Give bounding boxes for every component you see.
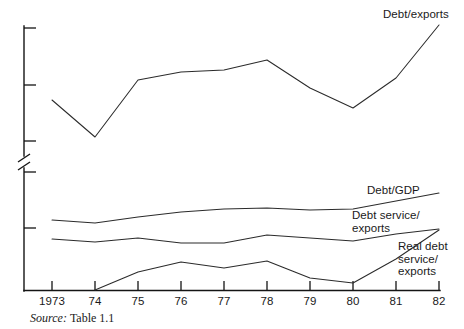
- series-label-debt-gdp: Debt/GDP: [367, 184, 420, 197]
- series-label-debt-exports: Debt/exports: [383, 8, 449, 21]
- series-label-real-debt-service-exports: Real debt service/ exports: [398, 240, 448, 278]
- series-label-debt-service-exports: Debt service/ exports: [352, 209, 420, 234]
- x-axis-label-82: 82: [433, 295, 446, 307]
- chart-figure: 1973 74 75 76 77 78 79 80 81 82 Debt/exp…: [0, 0, 464, 329]
- x-axis-label-1973: 1973: [39, 295, 65, 307]
- x-axis-label-75: 75: [132, 295, 145, 307]
- x-axis-label-74: 74: [89, 295, 102, 307]
- line-chart-canvas: [0, 0, 464, 329]
- x-axis-label-77: 77: [218, 295, 231, 307]
- x-axis-label-80: 80: [347, 295, 360, 307]
- source-note: Source: Table 1.1: [30, 311, 114, 326]
- source-note-label: Source:: [30, 311, 67, 325]
- source-note-value: Table 1.1: [70, 311, 114, 325]
- series-line-debt-exports: [52, 25, 439, 137]
- series-group: [52, 25, 439, 290]
- x-axis-label-76: 76: [175, 295, 188, 307]
- x-axis-label-81: 81: [390, 295, 403, 307]
- x-axis-label-79: 79: [304, 295, 317, 307]
- x-axis-label-78: 78: [261, 295, 274, 307]
